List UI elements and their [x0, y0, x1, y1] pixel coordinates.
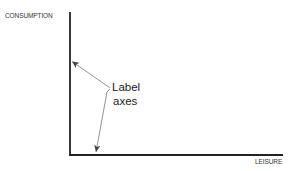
x-axis-label: LEISURE [255, 158, 283, 165]
y-axis-label: CONSUMPTION [5, 12, 53, 19]
annotation-line-2: axes [113, 95, 138, 107]
consumption-leisure-diagram: CONSUMPTION LEISURE Label axes [0, 0, 299, 171]
arrow-to-x-axis-icon [96, 89, 110, 152]
arrow-to-y-axis-icon [72, 62, 110, 88]
annotation-line-1: Label [112, 81, 140, 93]
